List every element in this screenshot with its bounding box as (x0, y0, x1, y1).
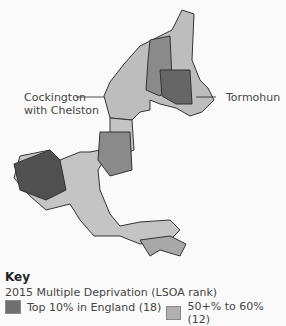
map-label-tormohun: Tormohun (226, 91, 280, 104)
label-line-2: with Chelston (24, 104, 99, 117)
key-item-50-60: 50+% to 60% (12) (166, 300, 286, 326)
label-line-1: Cockington (24, 91, 99, 104)
key-subtitle: 2015 Multiple Deprivation (LSOA rank) (5, 286, 217, 299)
swatch-top10 (5, 300, 21, 314)
map-label-cockington: Cockington with Chelston (24, 91, 99, 117)
deprivation-map (0, 0, 286, 270)
key-title: Key (5, 270, 30, 284)
key-item-top10: Top 10% in England (18) (5, 300, 161, 314)
swatch-50-60 (166, 306, 181, 320)
key-item-label: 50+% to 60% (12) (187, 300, 286, 326)
key-item-label: Top 10% in England (18) (27, 301, 161, 314)
